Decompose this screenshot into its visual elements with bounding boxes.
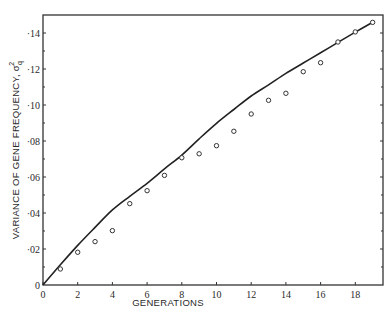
data-point: [162, 173, 166, 177]
observed-points: [58, 20, 375, 271]
y-tick-labels: 0·02·04·06·08·10·12·14: [27, 28, 40, 291]
data-point: [353, 30, 357, 34]
data-point: [232, 129, 236, 133]
data-point: [180, 156, 184, 160]
data-point: [93, 239, 97, 243]
x-tick-label: 4: [110, 289, 115, 300]
y-tick-label: ·02: [27, 244, 40, 255]
data-point: [197, 152, 201, 156]
x-axis-title: GENERATIONS: [132, 297, 204, 308]
x-tick-label: 14: [281, 289, 291, 300]
theoretical-curve: [43, 22, 373, 285]
data-point: [110, 228, 114, 232]
data-point: [318, 61, 322, 65]
data-point: [266, 98, 270, 102]
y-tick-label: 0: [35, 280, 40, 291]
data-point: [284, 91, 288, 95]
y-tick-label: ·14: [27, 28, 40, 39]
curve-line: [43, 22, 373, 285]
axis-ticks: [43, 33, 383, 285]
data-point: [301, 70, 305, 74]
data-point: [58, 267, 62, 271]
data-point: [145, 188, 149, 192]
data-point: [214, 143, 218, 147]
y-tick-label: ·10: [27, 100, 40, 111]
data-point: [336, 40, 340, 44]
y-axis-title-main: VARIANCE OF GENE FREQUENCY, σ: [10, 65, 21, 239]
x-tick-label: 12: [246, 289, 256, 300]
y-tick-label: ·12: [27, 64, 40, 75]
data-point: [370, 20, 374, 24]
y-axis-title-sub: q: [16, 61, 24, 65]
x-tick-label: 2: [75, 289, 80, 300]
y-axis-title-sup: 2: [8, 62, 15, 66]
x-tick-label: 10: [212, 289, 222, 300]
x-tick-label: 16: [316, 289, 326, 300]
x-tick-label: 0: [41, 289, 46, 300]
variance-chart: 024681012141618 0·02·04·06·08·10·12·14 G…: [0, 0, 392, 319]
data-point: [76, 250, 80, 254]
data-point: [128, 201, 132, 205]
y-tick-label: ·06: [27, 172, 40, 183]
x-tick-label: 18: [350, 289, 360, 300]
y-tick-label: ·08: [27, 136, 40, 147]
plot-frame: [43, 15, 383, 285]
data-point: [249, 112, 253, 116]
y-tick-label: ·04: [27, 208, 40, 219]
plot-border: [43, 15, 383, 285]
y-axis-title: VARIANCE OF GENE FREQUENCY, σq2: [8, 61, 24, 239]
